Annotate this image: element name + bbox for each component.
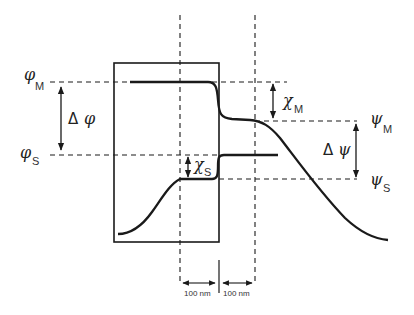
chi-m-sub: M xyxy=(294,103,303,115)
upper-potential-curve xyxy=(130,82,388,240)
potential-diagram: 100 nm 100 nm φ M φ S Δ φ χ M χ S ψ M ψ … xyxy=(0,0,414,315)
phi-s-sub: S xyxy=(32,155,39,167)
delta-psi-symbol: ψ xyxy=(338,140,351,159)
psi-s-sub: S xyxy=(383,182,390,194)
chi-s-sub: S xyxy=(204,166,211,178)
delta-phi-delta: Δ xyxy=(68,110,79,128)
phi-m-sub: M xyxy=(35,80,44,92)
delta-psi-delta: Δ xyxy=(323,141,334,159)
psi-s-label: ψ xyxy=(370,170,383,189)
psi-m-label: ψ xyxy=(370,109,383,128)
scale-label-right: 100 nm xyxy=(223,289,250,298)
scale-label-left: 100 nm xyxy=(184,289,211,298)
psi-m-sub: M xyxy=(383,123,392,135)
phi-s-label: φ xyxy=(20,143,32,162)
delta-phi-symbol: φ xyxy=(84,109,96,128)
chi-m-label: χ xyxy=(282,91,294,110)
interface-box xyxy=(114,63,219,242)
